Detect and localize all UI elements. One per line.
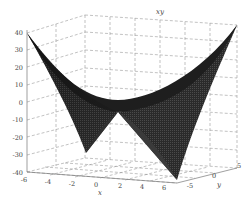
svg-text:-10: -10: [13, 116, 23, 124]
svg-text:10: 10: [15, 81, 23, 89]
surface-plot: 40 30 20 10 0 -10 -20 -30 -40 -6 -4 -2 0…: [0, 0, 245, 205]
svg-text:20: 20: [15, 64, 23, 72]
chart-title: xy: [156, 8, 165, 16]
svg-text:6: 6: [162, 184, 166, 192]
svg-text:-4: -4: [45, 178, 51, 186]
x-axis-ticks: -6 -4 -2 0 2 4 6: [21, 176, 166, 192]
svg-text:0: 0: [19, 99, 23, 107]
svg-text:4: 4: [140, 183, 144, 191]
svg-text:-2: -2: [69, 180, 75, 188]
y-axis-ticks: -5 0 5: [187, 162, 241, 190]
svg-text:-30: -30: [13, 151, 23, 159]
saddle-surface: [27, 25, 237, 180]
z-axis-ticks: 40 30 20 10 0 -10 -20 -30 -40: [13, 29, 23, 177]
svg-text:0: 0: [94, 181, 98, 189]
y-axis-label: y: [216, 181, 222, 189]
svg-text:-6: -6: [21, 176, 27, 184]
svg-text:-5: -5: [187, 182, 193, 190]
svg-text:5: 5: [237, 162, 241, 170]
svg-text:2: 2: [118, 182, 122, 190]
svg-text:30: 30: [15, 46, 23, 54]
svg-text:0: 0: [212, 172, 216, 180]
svg-text:40: 40: [15, 29, 23, 37]
svg-text:-20: -20: [13, 134, 23, 142]
x-axis-label: x: [98, 189, 102, 197]
